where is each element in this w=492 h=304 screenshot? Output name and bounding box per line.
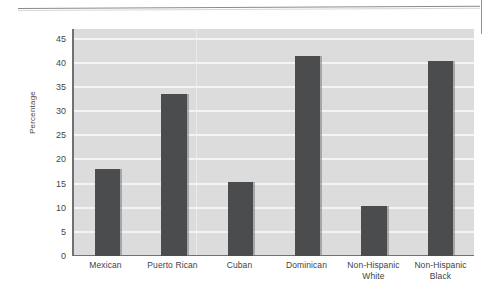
gridline [74, 231, 474, 233]
x-tick-label: Cuban [206, 260, 273, 271]
x-tick-label: Non-HispanicBlack [407, 260, 474, 282]
x-tick-label-line: Cuban [227, 260, 253, 270]
x-tick-label-line: White [340, 271, 407, 282]
x-tick-label-line: Non-Hispanic [347, 260, 399, 270]
x-tick-label: Puerto Rican [139, 260, 206, 271]
x-tick-label-line: Black [407, 271, 474, 282]
y-tick-label: 25 [40, 130, 66, 140]
gridline [74, 183, 474, 185]
y-tick-label: 15 [40, 179, 66, 189]
y-tick-label: 10 [40, 203, 66, 213]
y-tick-label: 30 [40, 106, 66, 116]
y-tick-label: 45 [40, 34, 66, 44]
gridline [74, 62, 474, 64]
bar-chart-figure: Percentage 051015202530354045 MexicanPue… [0, 0, 492, 304]
x-tick-label-line: Non-Hispanic [414, 260, 466, 270]
x-axis-tick-labels: MexicanPuerto RicanCubanDominicanNon-His… [72, 260, 474, 300]
x-tick-label-line: Puerto Rican [147, 260, 197, 270]
x-tick-label: Non-HispanicWhite [340, 260, 407, 282]
gridline [74, 158, 474, 160]
y-axis-tick-labels: 051015202530354045 [38, 29, 66, 256]
y-tick-label: 35 [40, 82, 66, 92]
x-tick-label: Dominican [273, 260, 340, 271]
x-tick-label-line: Dominican [286, 260, 327, 270]
gridline [74, 207, 474, 209]
bar [428, 61, 454, 256]
bar [228, 182, 254, 256]
gridline [74, 86, 474, 88]
plot-area [72, 29, 474, 256]
y-tick-label: 20 [40, 154, 66, 164]
bar [95, 169, 121, 256]
plot-inner [74, 29, 474, 256]
gridline [74, 134, 474, 136]
gridline [74, 38, 474, 40]
x-tick-label: Mexican [72, 260, 139, 271]
gridline [74, 110, 474, 112]
axis-baseline [74, 255, 474, 256]
y-tick-label: 5 [40, 227, 66, 237]
y-axis-title: Percentage [28, 73, 37, 153]
bar [361, 206, 387, 256]
bar [295, 56, 321, 256]
bar [161, 94, 187, 256]
y-tick-label: 40 [40, 58, 66, 68]
x-tick-label-line: Mexican [89, 260, 121, 270]
y-tick-label: 0 [40, 251, 66, 261]
